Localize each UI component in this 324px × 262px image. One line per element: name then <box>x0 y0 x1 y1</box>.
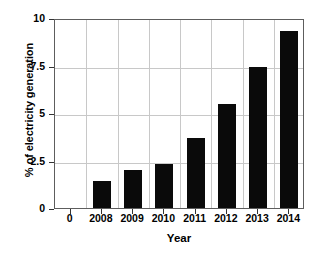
bar-2014 <box>280 31 298 208</box>
plot-area <box>54 19 304 209</box>
bar-2012 <box>218 104 236 208</box>
y-axis-tick-label: 7.5 <box>30 60 45 72</box>
y-axis-tick-label: 0 <box>39 202 45 214</box>
y-axis-tick-mark <box>49 209 54 210</box>
gridline-vertical <box>274 20 275 208</box>
y-axis-title: % of electricity generation <box>23 15 35 205</box>
gridline-vertical <box>211 20 212 208</box>
bar-chart-figure: % of electricity generation 02.557.510 0… <box>0 0 324 262</box>
bar-2009 <box>124 170 142 208</box>
x-axis-title: Year <box>54 232 304 244</box>
bar-2013 <box>249 67 267 208</box>
x-axis-tick-label: 2014 <box>268 212 308 224</box>
bar-2011 <box>187 138 205 208</box>
gridline-vertical <box>243 20 244 208</box>
gridline-vertical <box>86 20 87 208</box>
gridline-vertical <box>149 20 150 208</box>
gridline-vertical <box>180 20 181 208</box>
gridline-vertical <box>118 20 119 208</box>
y-axis-tick-label: 10 <box>33 12 45 24</box>
bar-2010 <box>155 164 173 208</box>
y-axis-tick-label: 2.5 <box>30 155 45 167</box>
bar-2008 <box>93 181 111 208</box>
y-axis-tick-label: 5 <box>39 107 45 119</box>
